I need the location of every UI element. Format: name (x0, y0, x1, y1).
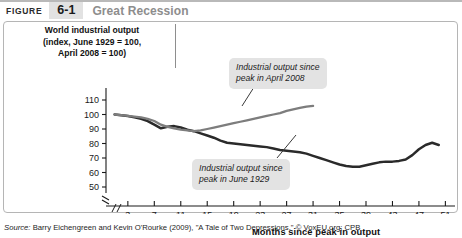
svg-text:27: 27 (282, 210, 292, 214)
source-note: Source: Barry Eichengreen and Kevin O'Ro… (4, 223, 462, 232)
source-text: Barry Eichengreen and Kevin O'Rourke (20… (31, 223, 361, 232)
svg-text:35: 35 (335, 210, 345, 214)
svg-text:110: 110 (85, 95, 99, 105)
figure-label: FIGURE (6, 6, 42, 16)
callout-1929-line-1: Industrial output since (199, 163, 283, 174)
svg-text:100: 100 (84, 110, 99, 120)
callout-2008-line-1: Industrial output since (236, 62, 320, 73)
svg-text:3: 3 (125, 210, 130, 214)
svg-text:70: 70 (89, 153, 99, 163)
svg-text:19: 19 (229, 210, 239, 214)
svg-text:23: 23 (255, 210, 265, 214)
source-label: Source: (4, 223, 31, 232)
svg-text:50: 50 (89, 182, 99, 192)
callout-1929-line-2: peak in June 1929 (199, 174, 283, 185)
chart-panel: World industrial output (index, June 192… (3, 21, 458, 213)
svg-text:60: 60 (89, 168, 99, 178)
figure-number-badge: 6-1 (49, 2, 83, 19)
callout-april-2008: Industrial output since peak in April 20… (229, 58, 327, 89)
svg-text:15: 15 (202, 210, 212, 214)
figure-header: FIGURE 6-1 Great Recession (0, 1, 462, 20)
series-group (115, 106, 439, 167)
callout-2008-line-2: peak in April 2008 (236, 73, 320, 84)
svg-text:31: 31 (308, 210, 318, 214)
svg-text:51: 51 (440, 210, 450, 214)
svg-text:39: 39 (361, 210, 371, 214)
svg-text:80: 80 (89, 139, 99, 149)
svg-text:90: 90 (89, 124, 99, 134)
callout-june-1929: Industrial output since peak in June 192… (192, 159, 290, 190)
svg-text:43: 43 (387, 210, 397, 214)
axis-group: 1101009080706050371115192327313539434751 (84, 88, 455, 214)
figure-title: Great Recession (92, 4, 188, 18)
svg-text:11: 11 (176, 210, 185, 214)
svg-text:47: 47 (414, 210, 424, 214)
svg-text:7: 7 (152, 210, 157, 214)
